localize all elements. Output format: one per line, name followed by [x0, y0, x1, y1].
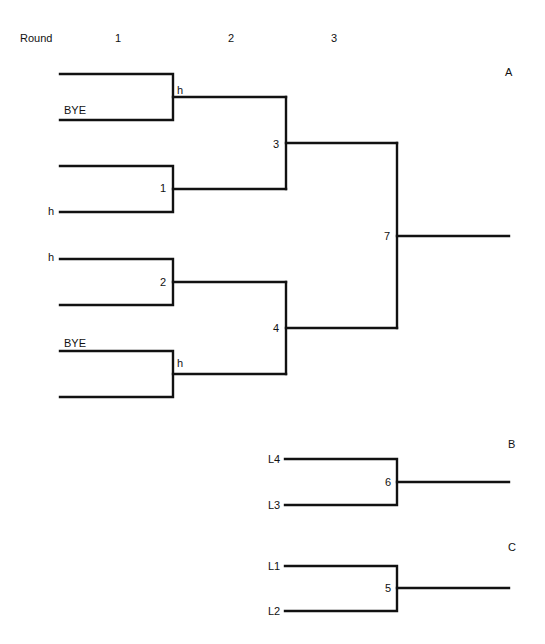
- bracket-c-lines: [285, 566, 509, 611]
- bracket-b-label: B: [508, 438, 515, 450]
- game-label-5: 5: [385, 582, 391, 594]
- game-label-r1-1: h: [177, 84, 183, 96]
- game-label-4: 4: [273, 322, 279, 334]
- bracket-a-round1-lines: [60, 74, 286, 397]
- bracket-a-slot-7: BYE: [64, 337, 86, 349]
- bracket-a-slot-2: BYE: [64, 104, 86, 116]
- game-label-r1-3: 2: [160, 276, 166, 288]
- game-label-r1-4: h: [177, 357, 183, 369]
- game-label-3: 3: [273, 138, 279, 150]
- bracket-a-round3-lines: [397, 143, 509, 328]
- bracket-a-slot-5: h: [48, 251, 54, 263]
- game-label-r1-2: 1: [160, 182, 166, 194]
- bracket-b-lines: [285, 459, 509, 505]
- game-label-7: 7: [384, 230, 390, 242]
- bracket-c-slot-1: L1: [268, 560, 280, 572]
- bracket-a-label: A: [505, 66, 512, 78]
- bracket-a-round2-lines: [286, 97, 397, 374]
- bracket-b-slot-2: L3: [268, 499, 280, 511]
- bracket-a-slot-4: h: [48, 205, 54, 217]
- game-label-6: 6: [385, 476, 391, 488]
- bracket-c-slot-2: L2: [268, 605, 280, 617]
- bracket-c-label: C: [508, 541, 516, 553]
- bracket-b-slot-1: L4: [268, 453, 280, 465]
